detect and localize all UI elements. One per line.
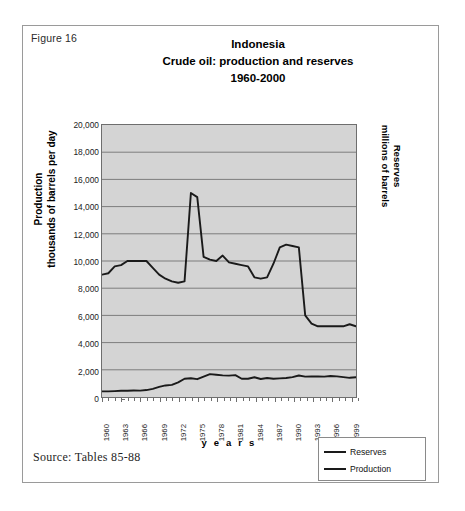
series-line-reserves bbox=[102, 193, 356, 326]
plot-area bbox=[101, 124, 357, 398]
legend-line-icon-production bbox=[324, 468, 346, 470]
plot-wrapper: Production thousands of barrels per day … bbox=[23, 26, 440, 484]
x-axis-tick-labels: 1960196319661969197219751978198119841987… bbox=[101, 401, 359, 441]
figure-frame: Figure 16 Indonesia Crude oil: productio… bbox=[22, 25, 439, 483]
y-axis-tick-label: 4,000 bbox=[53, 339, 99, 349]
series-line-production bbox=[102, 374, 356, 391]
y-axis-tick-label: 0 bbox=[53, 394, 99, 404]
y-axis-right-title: Reserves millions of barrels bbox=[379, 86, 403, 246]
legend-label-reserves: Reserves bbox=[350, 447, 386, 457]
legend-item-reserves: Reserves bbox=[324, 443, 425, 460]
y-axis-tick-label: 14,000 bbox=[53, 202, 99, 212]
legend-line-icon-reserves bbox=[324, 451, 346, 453]
y-axis-tick-label: 8,000 bbox=[53, 284, 99, 294]
chart-legend: Reserves Production bbox=[318, 437, 426, 481]
y-axis-right-title-line-1: Reserves bbox=[391, 86, 403, 246]
y-axis-tick-label: 20,000 bbox=[53, 120, 99, 130]
legend-label-production: Production bbox=[350, 464, 391, 474]
series-lines bbox=[102, 193, 356, 391]
plot-svg bbox=[102, 125, 356, 397]
y-axis-left-title-line-1: Production bbox=[32, 119, 45, 279]
source-note: Source: Tables 85-88 bbox=[33, 450, 141, 465]
y-axis-tick-labels: 20,00018,00016,00014,00012,00010,0008,00… bbox=[47, 124, 99, 398]
legend-item-production: Production bbox=[324, 460, 425, 477]
y-axis-tick-label: 10,000 bbox=[53, 257, 99, 267]
y-axis-tick-label: 2,000 bbox=[53, 367, 99, 377]
y-axis-tick-label: 16,000 bbox=[53, 175, 99, 185]
y-axis-tick-label: 12,000 bbox=[53, 230, 99, 240]
y-axis-tick-label: 6,000 bbox=[53, 312, 99, 322]
y-axis-right-title-line-2: millions of barrels bbox=[379, 86, 391, 246]
y-axis-tick-label: 18,000 bbox=[53, 147, 99, 157]
